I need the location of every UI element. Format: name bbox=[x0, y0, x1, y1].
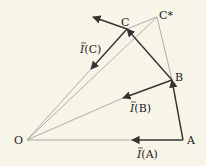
label-O: O bbox=[14, 134, 23, 147]
segment-B-C bbox=[127, 29, 172, 80]
label-Cstar: C* bbox=[159, 9, 173, 22]
label-IC-arg: (C) bbox=[84, 43, 101, 56]
line-C-Cstar bbox=[127, 17, 157, 29]
label-A: A bbox=[186, 134, 196, 147]
svg-text:I(A): I(A) bbox=[136, 148, 158, 161]
line-O-B bbox=[27, 98, 123, 140]
label-B: B bbox=[175, 71, 183, 84]
label-IB: I(B) bbox=[129, 102, 151, 115]
label-IC: I(C) bbox=[79, 43, 101, 56]
segment-A-B bbox=[172, 80, 183, 140]
svg-text:I(C): I(C) bbox=[79, 43, 101, 56]
vector-diagram: O A B C C* I(C) I(B) I(A) bbox=[0, 0, 206, 166]
impulse-vectors bbox=[91, 29, 183, 140]
label-IA: I(A) bbox=[136, 148, 158, 161]
construction-lines bbox=[27, 17, 172, 140]
label-C: C bbox=[121, 16, 129, 29]
vector-IB bbox=[123, 80, 172, 98]
svg-text:I(B): I(B) bbox=[129, 102, 151, 115]
line-O-C bbox=[27, 69, 91, 140]
line-O-Cstar bbox=[27, 17, 157, 140]
